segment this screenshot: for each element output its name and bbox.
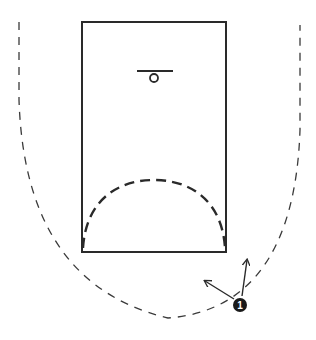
free-throw-lane [82, 22, 226, 252]
cut-arrow-left [205, 281, 234, 299]
court-diagram: 1 [0, 0, 316, 340]
player-label: 1 [237, 300, 243, 311]
player-marker-1: 1 [233, 298, 247, 312]
perimeter-dashed-path [19, 22, 300, 318]
basket-rim-icon [150, 74, 158, 82]
cut-arrow-up [242, 260, 247, 296]
free-throw-arc [83, 180, 225, 248]
